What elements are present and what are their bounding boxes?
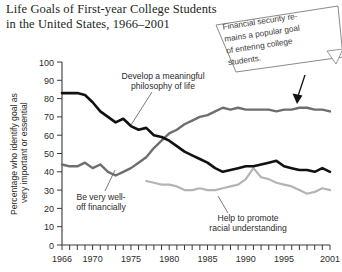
series-group (62, 93, 330, 194)
x-tick-label: 1990 (236, 254, 256, 264)
annotation-financial-line-2: off financially (76, 202, 126, 212)
annotation-racial: Help to promote racial understanding (209, 196, 287, 233)
x-tick-label: 1985 (197, 254, 217, 264)
y-axis-ticks (57, 62, 62, 245)
x-tick-label: 2001 (320, 254, 340, 264)
x-axis-ticks (62, 245, 330, 250)
x-tick-label: 1970 (83, 254, 103, 264)
callout-note: Financial security re- mains a popular g… (216, 6, 342, 104)
series-line-racial-understanding (146, 168, 330, 194)
y-tick-label: 100 (39, 58, 54, 68)
y-tick-label: 50 (44, 149, 54, 159)
y-tick-label: 60 (44, 131, 54, 141)
x-tick-label: 1980 (159, 254, 179, 264)
y-axis-tick-labels: 100 90 80 70 60 50 40 30 20 10 0 (39, 58, 54, 251)
x-tick-label: 1995 (274, 254, 294, 264)
x-axis-tick-labels: 1966 1970 1975 1980 1985 1990 1995 2001 (52, 254, 340, 264)
y-tick-label: 70 (44, 112, 54, 122)
callout-arrow-head (293, 94, 303, 105)
x-tick-label: 1975 (121, 254, 141, 264)
annotation-philosophy: Develop a meaningful philosophy of life (121, 71, 204, 125)
y-axis-title-line-2: very important or essential (19, 102, 29, 203)
annotation-financial: Be very well- off financially (76, 170, 126, 212)
y-axis-title-line-1: Percentage who identify goal as (9, 93, 19, 215)
annotation-philosophy-line-1: Develop a meaningful (121, 71, 204, 81)
chart-canvas: 100 90 80 70 60 50 40 30 20 10 0 Percent… (0, 0, 342, 272)
y-tick-label: 0 (49, 241, 54, 251)
y-tick-label: 80 (44, 94, 54, 104)
y-tick-label: 10 (44, 222, 54, 232)
series-line-philosophy-of-life (62, 93, 330, 172)
y-tick-label: 20 (44, 204, 54, 214)
annotation-philosophy-line-2: philosophy of life (131, 81, 195, 91)
chart-figure: Life Goals of First-year College Student… (0, 0, 342, 272)
y-axis-title: Percentage who identify goal as very imp… (9, 93, 29, 215)
annotation-racial-line-2: racial understanding (209, 223, 287, 233)
y-tick-label: 90 (44, 76, 54, 86)
callout-arrow (293, 75, 306, 104)
leader-line-racial (218, 196, 228, 213)
leader-line-philosophy (131, 92, 152, 125)
y-tick-label: 30 (44, 186, 54, 196)
axes (62, 62, 330, 245)
x-tick-label: 1966 (52, 254, 72, 264)
annotation-financial-line-1: Be very well- (76, 192, 125, 202)
y-tick-label: 40 (44, 167, 54, 177)
series-line-well-off-financially (62, 108, 330, 176)
annotation-racial-line-1: Help to promote (217, 213, 278, 223)
